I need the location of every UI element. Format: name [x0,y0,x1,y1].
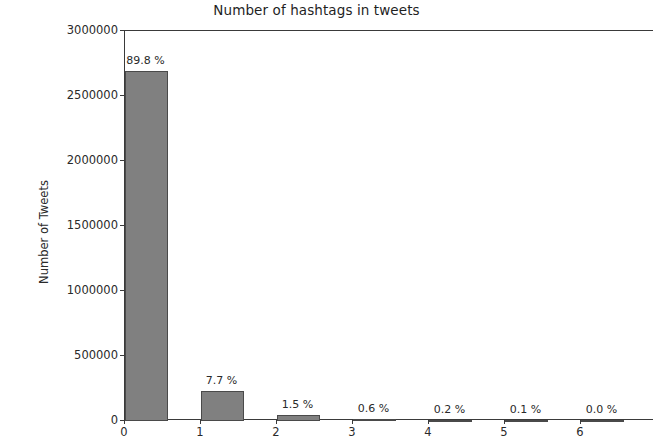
bars-container [125,31,653,419]
y-tick-label: 3000000 [0,23,128,37]
bar-percentage-label: 1.5 % [263,398,333,411]
x-tick-label: 3 [332,425,372,439]
x-tick-label: 2 [256,425,296,439]
x-tick-label: 4 [408,425,448,439]
bar-percentage-label: 0.6 % [339,402,409,415]
bar-percentage-label: 0.2 % [415,403,485,416]
bar [581,420,624,422]
bar [505,420,548,422]
bar [125,71,168,421]
x-tick-label: 1 [180,425,220,439]
plot-area [124,30,653,420]
bar-percentage-label: 7.7 % [187,374,257,387]
bar-percentage-label: 89.8 % [111,54,181,67]
x-tick-label: 0 [104,425,144,439]
x-tick-label: 6 [560,425,600,439]
y-tick-label: 2000000 [0,153,128,167]
bar [277,415,320,421]
x-tick-label: 5 [484,425,524,439]
bar-percentage-label: 0.1 % [491,403,561,416]
bar-percentage-label: 0.0 % [567,403,637,416]
chart-title: Number of hashtags in tweets [0,2,633,18]
y-tick-label: 500000 [0,348,128,362]
bar [429,420,472,422]
y-tick-label: 2500000 [0,88,128,102]
y-tick-label: 1000000 [0,283,128,297]
bar [353,419,396,421]
y-tick-label: 1500000 [0,218,128,232]
bar [201,391,244,421]
